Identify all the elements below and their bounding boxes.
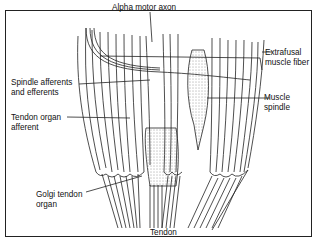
label-line: muscle fiber — [265, 58, 309, 68]
label-line: Extrafusal — [265, 48, 309, 58]
label-line: afferent — [11, 123, 61, 133]
label-spindle-afferents: Spindle afferents and efferents — [11, 78, 72, 97]
label-golgi-tendon-organ: Golgi tendon organ — [36, 190, 82, 209]
label-line: Tendon organ — [11, 113, 61, 123]
label-muscle-spindle: Muscle spindle — [264, 93, 290, 112]
label-line: spindle — [264, 103, 290, 113]
label-line: organ — [36, 200, 82, 210]
label-alpha-motor-axon: Alpha motor axon — [112, 3, 176, 13]
label-line: Spindle afferents — [11, 78, 72, 88]
label-extrafusal-muscle-fiber: Extrafusal muscle fiber — [265, 48, 309, 67]
label-tendon: Tendon — [150, 228, 177, 238]
label-tendon-organ-afferent: Tendon organ afferent — [11, 113, 61, 132]
label-line: Muscle — [264, 93, 290, 103]
label-line: Golgi tendon — [36, 190, 82, 200]
label-line: and efferents — [11, 88, 72, 98]
